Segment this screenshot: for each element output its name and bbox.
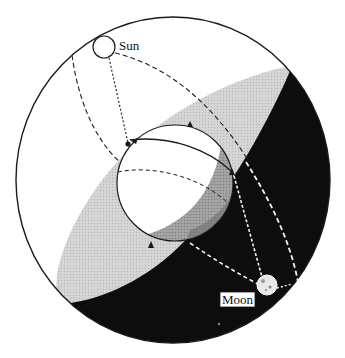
- moon-icon: [257, 275, 277, 295]
- star-dot: [218, 323, 220, 325]
- moon-crater: [265, 289, 267, 291]
- sun-icon: [93, 36, 115, 58]
- moon-crater: [268, 285, 271, 288]
- moon-label: Moon: [222, 292, 254, 307]
- sun-label: Sun: [119, 38, 140, 53]
- celestial-diagram: Sun Moon: [0, 0, 345, 358]
- moon-crater: [261, 279, 265, 283]
- observer-point: [125, 141, 130, 146]
